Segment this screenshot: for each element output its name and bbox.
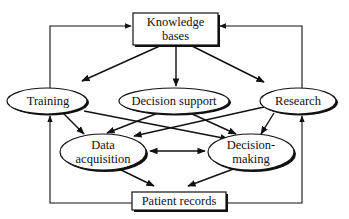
training-label: Training xyxy=(27,94,70,108)
edge-training-to-knowledge-bases xyxy=(50,26,131,88)
research-label: Research xyxy=(275,94,322,108)
edge-research-to-decision-making xyxy=(261,113,274,134)
edge-decision-making-to-patient-records xyxy=(188,168,236,186)
workflow-diagram: Knowledge bases Training Decision suppor… xyxy=(0,0,349,219)
edge-decision-support-to-decision-making xyxy=(190,113,236,134)
decision-making-label-2: making xyxy=(232,152,270,166)
edge-kb-to-training xyxy=(82,45,162,81)
knowledge-base-edges xyxy=(82,45,264,86)
edge-decision-support-to-data-acquisition xyxy=(107,113,158,133)
edge-data-acquisition-to-patient-records xyxy=(117,168,154,186)
data-acquisition-label-1: Data xyxy=(91,138,115,152)
knowledge-bases-label-1: Knowledge xyxy=(147,15,205,29)
patient-records-label: Patient records xyxy=(142,194,217,208)
node-decision-support: Decision support xyxy=(119,88,231,116)
edge-kb-to-research xyxy=(190,45,264,82)
node-patient-records: Patient records xyxy=(132,192,228,212)
decision-support-label: Decision support xyxy=(131,94,217,108)
edge-research-to-knowledge-bases xyxy=(220,26,302,88)
edge-training-to-data-acquisition xyxy=(63,113,84,134)
node-decision-making: Decision- making xyxy=(208,134,296,172)
node-research: Research xyxy=(260,88,338,116)
node-knowledge-bases: Knowledge bases xyxy=(133,13,220,47)
decision-making-label-1: Decision- xyxy=(227,138,276,152)
node-training: Training xyxy=(7,88,89,116)
data-acquisition-label-2: acquisition xyxy=(76,152,132,166)
knowledge-bases-label-2: bases xyxy=(162,29,189,43)
node-data-acquisition: Data acquisition xyxy=(60,134,148,172)
